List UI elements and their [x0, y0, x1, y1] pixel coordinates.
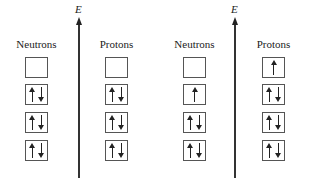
energy-level-box: [183, 57, 206, 78]
energy-level-box: [105, 140, 128, 161]
spin-up-arrow-icon: [271, 60, 277, 75]
energy-level-box: [262, 84, 285, 105]
energy-axis-label: E: [75, 3, 82, 15]
energy-axis-label: E: [231, 3, 238, 15]
spin-up-arrow-icon: [29, 143, 35, 158]
energy-level-box: [105, 84, 128, 105]
energy-level-box: [183, 140, 206, 161]
spin-up-arrow-icon: [109, 115, 115, 130]
spin-down-arrow-icon: [118, 87, 124, 102]
spin-down-arrow-icon: [118, 143, 124, 158]
spin-up-arrow-icon: [109, 143, 115, 158]
spin-up-arrow-icon: [266, 115, 272, 130]
energy-level-box: [262, 57, 285, 78]
energy-level-box: [262, 140, 285, 161]
spin-up-arrow-icon: [187, 115, 193, 130]
spin-down-arrow-icon: [275, 87, 281, 102]
spin-down-arrow-icon: [196, 143, 202, 158]
spin-up-arrow-icon: [192, 87, 198, 102]
protons-column-label: Protons: [244, 38, 304, 50]
energy-level-box: [25, 112, 48, 133]
energy-level-box: [25, 84, 48, 105]
neutrons-column-label: Neutrons: [165, 38, 225, 50]
spin-down-arrow-icon: [38, 143, 44, 158]
spin-up-arrow-icon: [29, 87, 35, 102]
energy-level-box: [262, 112, 285, 133]
neutrons-column-label: Neutrons: [7, 38, 67, 50]
spin-down-arrow-icon: [38, 115, 44, 130]
spin-up-arrow-icon: [29, 115, 35, 130]
energy-level-box: [183, 112, 206, 133]
spin-up-arrow-icon: [109, 87, 115, 102]
spin-up-arrow-icon: [187, 143, 193, 158]
spin-down-arrow-icon: [196, 115, 202, 130]
arrow-up-icon: [232, 17, 238, 25]
protons-column-label: Protons: [87, 38, 147, 50]
energy-axis-line: [78, 24, 80, 178]
spin-up-arrow-icon: [266, 87, 272, 102]
energy-level-box: [105, 57, 128, 78]
spin-down-arrow-icon: [275, 115, 281, 130]
energy-level-box: [25, 57, 48, 78]
energy-axis-line: [234, 24, 236, 178]
energy-level-box: [183, 84, 206, 105]
spin-down-arrow-icon: [118, 115, 124, 130]
energy-level-box: [25, 140, 48, 161]
energy-level-box: [105, 112, 128, 133]
arrow-up-icon: [76, 17, 82, 25]
spin-up-arrow-icon: [266, 143, 272, 158]
spin-down-arrow-icon: [275, 143, 281, 158]
spin-down-arrow-icon: [38, 87, 44, 102]
